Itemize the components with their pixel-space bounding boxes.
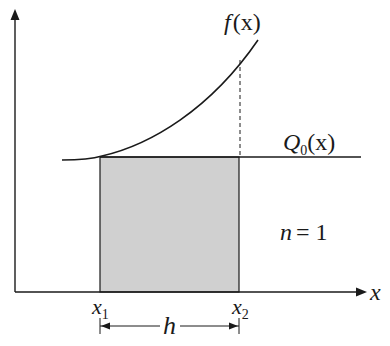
h-arrow-right-icon [229,323,238,330]
f-label: f(x) [224,9,261,35]
h-label: h [163,311,176,340]
x1-label: x1 [91,294,109,322]
diagram-canvas: f(x) Q0(x) n= 1 x x1 x2 h [0,0,390,346]
diagram-svg: f(x) Q0(x) n= 1 x x1 x2 h [0,0,390,346]
y-axis-arrow-icon [11,9,20,20]
x-axis-arrow-icon [356,288,367,297]
h-arrow-left-icon [101,323,110,330]
n-label: n= 1 [280,219,328,245]
f-curve [62,40,258,160]
shaded-rectangle-area [100,157,239,292]
q0-label: Q0(x) [283,129,335,158]
x-axis-label: x [369,279,381,305]
x2-label: x2 [231,294,249,322]
